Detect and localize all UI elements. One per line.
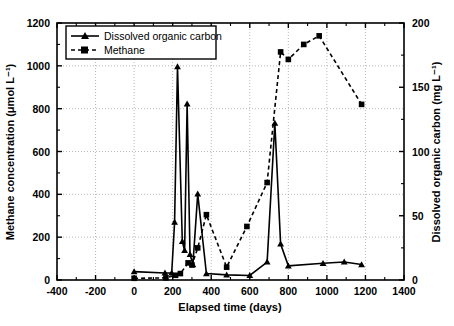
x-axis-title: Elapsed time (days) (178, 301, 282, 313)
x-tick-label: 0 (131, 285, 137, 297)
y-axis-right-title: Dissolved organic carbon (mg L⁻¹) (430, 61, 442, 242)
x-tick-label: 400 (202, 285, 220, 297)
y-right-tick-label: 0 (412, 274, 418, 286)
square-marker-icon (224, 264, 230, 270)
legend-label-doc: Dissolved organic carbon (104, 30, 222, 42)
square-marker-icon (189, 262, 195, 268)
square-marker-icon (244, 224, 250, 230)
y-left-tick-label: 200 (32, 231, 50, 243)
legend-label-methane: Methane (104, 44, 145, 56)
legend: Dissolved organic carbon Methane (66, 26, 222, 59)
y-right-tick-label: 150 (412, 81, 430, 93)
x-tick-label: 600 (241, 285, 259, 297)
y-left-tick-label: 0 (44, 274, 50, 286)
y-left-tick-label: 1000 (27, 60, 51, 72)
square-marker-icon (81, 47, 88, 54)
y-left-tick-label: 400 (32, 188, 50, 200)
square-marker-icon (278, 49, 284, 55)
square-marker-icon (178, 271, 184, 277)
x-tick-label: -200 (85, 285, 106, 297)
y-left-tick-label: 800 (32, 103, 50, 115)
y-axis-left-title: Methane concentration (μmol L⁻¹) (4, 63, 16, 240)
square-marker-icon (264, 180, 270, 186)
y-right-tick-label: 50 (412, 210, 424, 222)
y-left-tick-label: 600 (32, 146, 50, 158)
x-tick-label: 800 (280, 285, 298, 297)
figure-container: -400-20002004006008001000120014000200400… (0, 0, 454, 326)
y-right-tick-label: 100 (412, 146, 430, 158)
square-marker-icon (301, 42, 307, 48)
y-left-tick-label: 1200 (27, 17, 51, 29)
x-tick-label: 1200 (354, 285, 378, 297)
square-marker-icon (204, 212, 210, 218)
square-marker-icon (173, 272, 179, 278)
chart-svg: -400-20002004006008001000120014000200400… (0, 0, 454, 326)
square-marker-icon (316, 33, 322, 39)
x-tick-label: 1000 (315, 285, 339, 297)
x-tick-label: 1400 (392, 285, 416, 297)
square-marker-icon (195, 245, 201, 251)
x-tick-label: -400 (46, 285, 67, 297)
y-right-tick-label: 200 (412, 17, 430, 29)
x-tick-label: 200 (164, 285, 182, 297)
square-marker-icon (286, 57, 292, 63)
square-marker-icon (359, 102, 365, 108)
